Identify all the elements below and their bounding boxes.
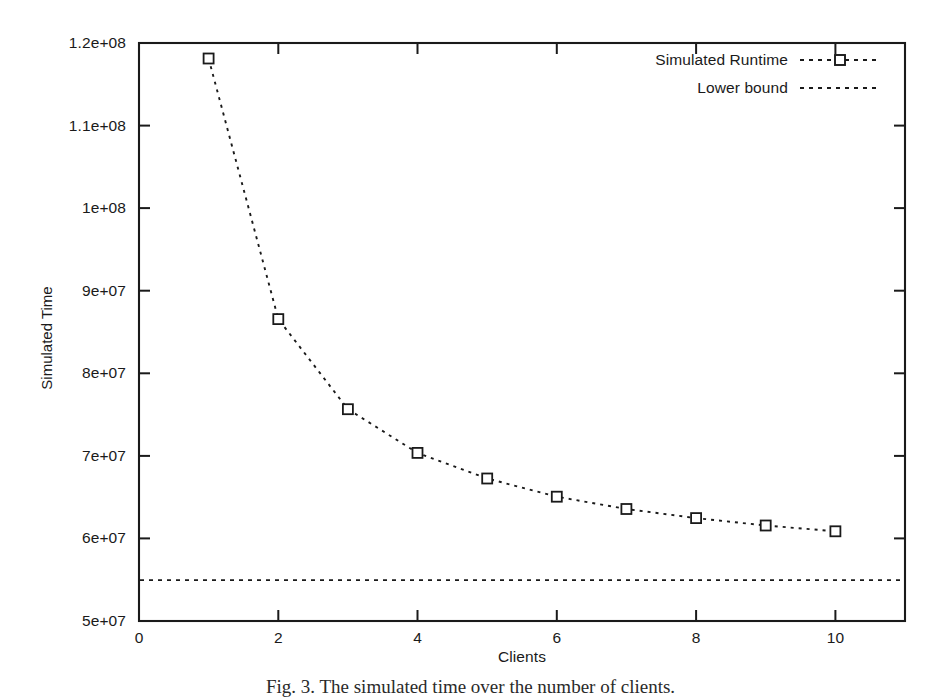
data-point-marker xyxy=(552,492,562,502)
legend-label-simulated-runtime: Simulated Runtime xyxy=(580,51,788,69)
y-tick-label: 1e+08 xyxy=(22,199,126,217)
data-point-marker xyxy=(413,448,423,458)
data-point-marker xyxy=(204,54,214,64)
y-tick-marks xyxy=(139,43,905,621)
y-tick-label: 6e+07 xyxy=(22,529,126,547)
series-markers xyxy=(204,54,841,537)
x-tick-label: 8 xyxy=(692,629,701,647)
series-simulated-runtime xyxy=(209,59,836,532)
legend-label-lower-bound: Lower bound xyxy=(580,79,788,97)
data-point-marker xyxy=(343,404,353,414)
data-point-marker xyxy=(482,474,492,484)
x-tick-label: 6 xyxy=(552,629,561,647)
y-tick-label: 1.2e+08 xyxy=(22,34,126,52)
y-tick-label: 7e+07 xyxy=(22,447,126,465)
data-point-marker xyxy=(830,526,840,536)
data-point-marker xyxy=(761,521,771,531)
y-tick-label: 1.1e+08 xyxy=(22,117,126,135)
x-tick-marks xyxy=(139,43,835,621)
x-tick-label: 10 xyxy=(827,629,844,647)
plot-frame xyxy=(139,43,905,621)
y-axis-label: Simulated Time xyxy=(38,286,55,389)
x-tick-label: 4 xyxy=(413,629,422,647)
data-point-marker xyxy=(691,513,701,523)
figure-caption: Fig. 3. The simulated time over the numb… xyxy=(0,676,941,698)
chart-canvas xyxy=(0,0,941,699)
x-tick-label: 0 xyxy=(135,629,144,647)
y-tick-label: 5e+07 xyxy=(22,612,126,630)
x-tick-label: 2 xyxy=(274,629,283,647)
data-point-marker xyxy=(621,504,631,514)
data-point-marker xyxy=(273,314,283,324)
legend-key-simulated-runtime xyxy=(800,55,881,65)
x-axis-label: Clients xyxy=(498,648,546,666)
figure-container: 1.2e+08 1.1e+08 1e+08 9e+07 8e+07 7e+07 … xyxy=(0,0,941,699)
